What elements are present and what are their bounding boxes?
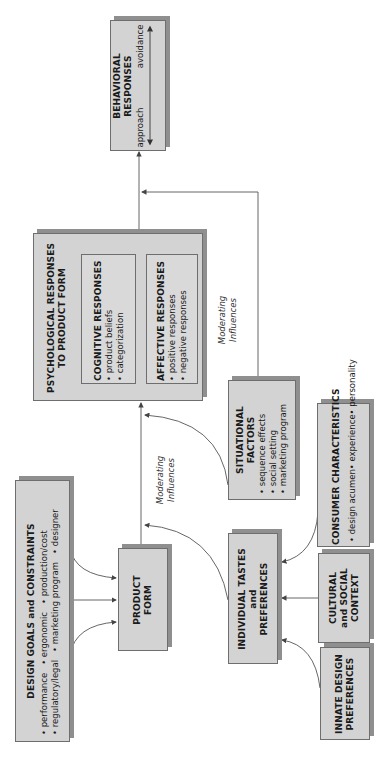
behavioral-title-line1: BEHAVIORAL [112,20,123,151]
situational-item: • sequence effects [257,382,268,494]
product-form-title-line2: FORM [143,550,154,650]
situational-item: • marketing program [278,382,289,494]
cultural-title-line3: CONTEXT [350,554,361,642]
cognitive-item: • categorization [114,257,125,381]
affective-item: • negative responses [178,257,189,381]
product-form-box: PRODUCT FORM [118,548,168,651]
cultural-title-line2: and SOCIAL [339,554,350,642]
influences-text: Influences [166,456,177,504]
moderating-influences-label-upper: Moderating Influences [208,300,248,340]
design-goals-title: DESIGN GOALS and CONSTRAINTS [26,483,37,739]
approach-label: approach [135,107,146,147]
cognitive-item: • product beliefs [104,257,115,381]
design-goals-box: DESIGN GOALS and CONSTRAINTS • performan… [15,480,70,742]
behavioral-title-line2: RESPONSES [123,20,134,151]
moderating-text: Moderating [217,296,228,344]
behavioral-responses-content: BEHAVIORAL RESPONSES approach avoidance [110,20,166,151]
cognitive-title: COGNITIVE RESPONSES [93,257,104,381]
design-goal-item: • designer [49,509,60,554]
innate-title-line2: PREFERENCES [345,649,356,739]
situational-item: • social setting [268,382,279,494]
situational-title-line2: FACTORS [246,382,257,498]
design-goal-item: • marketing program [49,562,60,652]
behavioral-responses-box: BEHAVIORAL RESPONSES approach avoidance [110,20,166,151]
affective-title: AFFECTIVE RESPONSES [156,257,167,381]
psychological-responses-box: PSYCHOLOGICAL RESPONSES TO PRODUCT FORM … [33,233,203,401]
individual-tastes-box: INDIVIDUAL TASTES and PREFERENCES [228,533,278,664]
consumer-title: CONSUMER CHARACTERISTICS [330,405,341,545]
cultural-title-line1: CULTURAL [328,554,339,642]
individual-tastes-title-line2: and [248,535,259,663]
moderating-influences-label-lower: Moderating Influences [146,460,186,500]
design-goal-item: • performance [39,673,50,735]
cognitive-responses-box: COGNITIVE RESPONSES • product beliefs • … [81,254,136,384]
approach-avoidance-arrow-icon [146,26,154,146]
moderating-text: Moderating [155,456,166,504]
psychological-title-area: PSYCHOLOGICAL RESPONSES TO PRODUCT FORM [34,234,80,402]
consumer-item: • personality [346,359,357,414]
design-goal-item: • production/cost [39,530,50,604]
individual-tastes-title-line3: PREFERENCES [259,535,270,663]
affective-item: • positive responses [167,257,178,381]
innate-title-line1: INNATE DESIGN [334,649,345,739]
consumer-item: • design acumen [346,469,357,542]
affective-responses-box: AFFECTIVE RESPONSES • positive responses… [146,254,198,384]
consumer-characteristics-box: CONSUMER CHARACTERISTICS • design acumen… [317,403,370,547]
design-goal-item: • ergonomic [39,612,50,665]
avoidance-label: avoidance [135,24,146,68]
product-form-title-line1: PRODUCT [132,550,143,650]
individual-tastes-title-line1: INDIVIDUAL TASTES [237,535,248,663]
design-goal-item: • regulatory/legal [49,660,60,735]
psychological-title-line2: TO PRODUCT FORM [57,234,68,402]
situational-factors-box: SITUATIONAL FACTORS • sequence effects •… [228,380,296,500]
consumer-item: • experience [346,414,357,469]
innate-design-preferences-box: INNATE DESIGN PREFERENCES [320,647,370,740]
psychological-title-line1: PSYCHOLOGICAL RESPONSES [46,234,57,402]
influences-text: Influences [228,296,239,344]
situational-title-line1: SITUATIONAL [235,382,246,498]
cultural-context-box: CULTURAL and SOCIAL CONTEXT [318,553,370,643]
